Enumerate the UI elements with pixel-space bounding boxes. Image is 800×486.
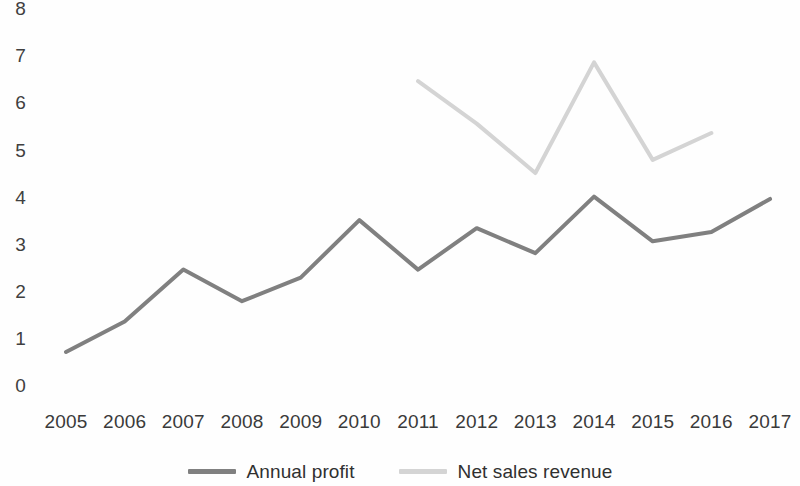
x-tick-label: 2006 <box>103 412 146 431</box>
x-tick-label: 2017 <box>748 412 791 431</box>
legend-line-swatch-icon <box>188 469 236 474</box>
x-tick-label: 2007 <box>162 412 205 431</box>
line-chart: 012345678 200520062007200820092010201120… <box>0 0 800 486</box>
x-tick-label: 2011 <box>397 412 439 431</box>
x-tick-label: 2013 <box>514 412 557 431</box>
x-tick-label: 2010 <box>338 412 381 431</box>
legend-entry[interactable]: Annual profit <box>188 462 355 481</box>
series-canvas <box>0 0 800 400</box>
x-tick-label: 2016 <box>690 412 733 431</box>
plot-area <box>0 0 800 400</box>
x-tick-label: 2009 <box>279 412 322 431</box>
x-axis: 2005200620072008200920102011201220132014… <box>0 412 800 442</box>
x-tick-label: 2014 <box>572 412 615 431</box>
legend-entry[interactable]: Net sales revenue <box>399 462 613 481</box>
legend-label: Net sales revenue <box>458 462 613 481</box>
series-line <box>66 197 770 352</box>
x-tick-label: 2012 <box>455 412 498 431</box>
x-tick-label: 2005 <box>44 412 87 431</box>
x-tick-label: 2015 <box>631 412 674 431</box>
legend-line-swatch-icon <box>399 469 447 474</box>
x-tick-label: 2008 <box>220 412 263 431</box>
legend-label: Annual profit <box>247 462 355 481</box>
series-line <box>418 62 711 173</box>
chart-legend: Annual profitNet sales revenue <box>0 456 800 486</box>
